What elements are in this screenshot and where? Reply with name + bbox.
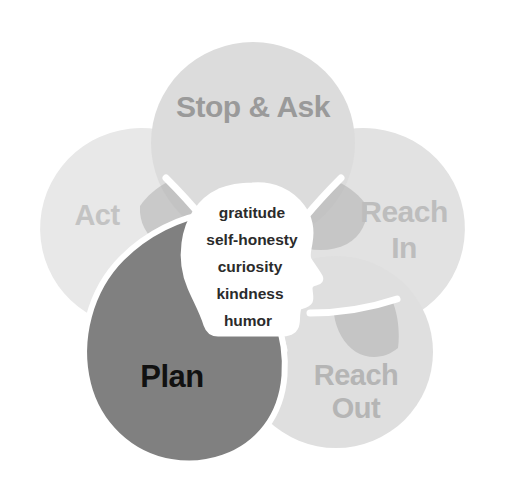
petal-diagram: Stop & Ask Reach In Reach Out Plan Act g… — [0, 0, 507, 497]
core-word-self-honesty: self-honesty — [206, 231, 298, 248]
petal-label-plan: Plan — [140, 359, 203, 394]
core-word-gratitude: gratitude — [219, 204, 286, 221]
core-word-kindness: kindness — [216, 285, 283, 302]
core-word-curiosity: curiosity — [218, 258, 283, 275]
petal-label-reach-in-line2: In — [391, 231, 417, 264]
flower-diagram-svg: Stop & Ask Reach In Reach Out Plan Act g… — [0, 0, 507, 497]
petal-label-reach-in-line1: Reach — [360, 195, 448, 228]
petal-label-reach-out-line1: Reach — [314, 359, 399, 391]
petal-label-act: Act — [74, 199, 120, 231]
petal-label-reach-out-line2: Out — [332, 392, 381, 424]
petal-label-stop-and-ask: Stop & Ask — [176, 90, 331, 123]
core-word-humor: humor — [224, 312, 272, 329]
